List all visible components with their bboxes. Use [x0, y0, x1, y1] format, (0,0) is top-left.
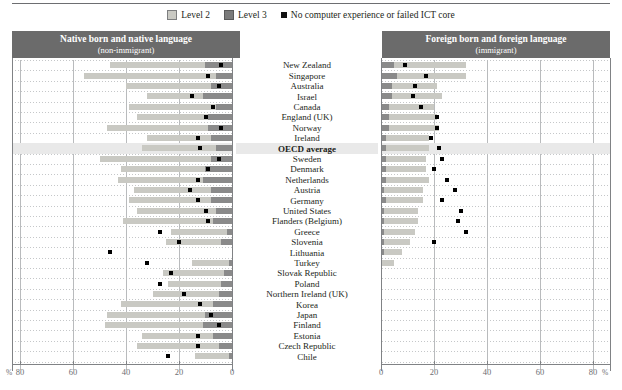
table-row [129, 197, 232, 203]
bar-segment-level-3 [213, 301, 232, 307]
no-computer-marker [182, 292, 186, 296]
no-computer-marker [419, 105, 423, 109]
axis-tick-label-native: 60 [58, 367, 88, 377]
no-computer-marker [217, 157, 221, 161]
gridline-horizontal [12, 362, 232, 363]
legend-label-no-computer: No computer experience or failed ICT cor… [291, 10, 455, 20]
table-row [142, 145, 232, 151]
bar-segment-level-2 [384, 239, 411, 245]
axis-tick-label-native: 20 [164, 367, 194, 377]
bar-segment-level-2 [137, 343, 219, 349]
gridline-horizontal [12, 289, 232, 290]
bar-segment-level-3 [211, 83, 232, 89]
axis-line-immigrant [381, 364, 610, 365]
table-row [147, 135, 232, 141]
bar-segment-level-2 [107, 312, 205, 318]
table-row [382, 145, 429, 151]
table-row [123, 218, 232, 224]
table-row [382, 166, 426, 172]
category-label: Austria [236, 185, 378, 195]
bar-segment-level-2 [110, 62, 205, 68]
table-row [107, 125, 232, 131]
gridline-horizontal [12, 91, 232, 92]
no-computer-marker [424, 74, 428, 78]
no-computer-marker [196, 178, 200, 182]
axis-tick-immigrant [593, 361, 594, 364]
gridline-horizontal [12, 299, 232, 300]
gridline-horizontal [382, 330, 610, 331]
gridline-horizontal [382, 122, 610, 123]
bar-segment-level-3 [216, 104, 232, 110]
plot-frame-immigrant-left [381, 58, 382, 371]
table-row [137, 208, 232, 214]
category-label: Slovak Republic [236, 268, 378, 278]
no-computer-marker [464, 230, 468, 234]
no-computer-marker [459, 209, 463, 213]
bar-segment-level-2 [84, 73, 217, 79]
bar-segment-level-3 [382, 83, 392, 89]
no-computer-marker [198, 302, 202, 306]
legend-item-no-computer: No computer experience or failed ICT cor… [281, 10, 455, 20]
axis-tick-native [126, 361, 127, 364]
gridline-horizontal [382, 174, 610, 175]
plot-frame-immigrant-right [610, 58, 611, 371]
bar-segment-level-2 [192, 260, 229, 266]
axis-tick-label-immigrant: 20 [419, 367, 449, 377]
category-label: Germany [236, 196, 378, 206]
bar-segment-level-2 [386, 177, 428, 183]
category-label-column: New ZealandSingaporeAustraliaIsraelCanad… [236, 60, 378, 370]
category-label: Flanders (Belgium) [236, 216, 378, 226]
bar-segment-level-2 [384, 229, 416, 235]
no-computer-marker [188, 188, 192, 192]
no-computer-marker [435, 115, 439, 119]
gridline-horizontal [382, 299, 610, 300]
no-computer-marker [432, 167, 436, 171]
gridline-horizontal [382, 206, 610, 207]
no-computer-marker [196, 136, 200, 140]
gridline-horizontal [12, 122, 232, 123]
bar-segment-level-2 [386, 156, 426, 162]
category-label: Norway [236, 123, 378, 133]
bar-segment-level-3 [382, 73, 397, 79]
no-computer-marker-icon [281, 12, 287, 18]
category-label: Czech Republic [236, 341, 378, 351]
category-label: Northern Ireland (UK) [236, 289, 378, 299]
gridline-horizontal [12, 60, 232, 61]
no-computer-marker [145, 261, 149, 265]
gridline-horizontal [12, 226, 232, 227]
gridline-horizontal [382, 185, 610, 186]
bar-segment-level-2 [386, 197, 423, 203]
category-label: OECD average [236, 144, 378, 154]
gridline-horizontal [382, 133, 610, 134]
category-label: Australia [236, 81, 378, 91]
panel-header-immigrant-subtitle: (immigrant) [475, 45, 516, 56]
bar-segment-level-2 [147, 93, 203, 99]
no-computer-marker [217, 323, 221, 327]
category-label: Canada [236, 102, 378, 112]
no-computer-marker [169, 271, 173, 275]
bar-segment-level-2 [142, 333, 214, 339]
gridline-horizontal [12, 102, 232, 103]
category-label: Chile [236, 352, 378, 362]
gridline-horizontal [12, 278, 232, 279]
no-computer-marker [219, 63, 223, 67]
table-row [121, 301, 232, 307]
bar-segment-level-3 [211, 187, 232, 193]
axis-tick-label-immigrant: 60 [525, 367, 555, 377]
bar-segment-level-3 [382, 104, 389, 110]
bar-segment-level-2 [397, 73, 466, 79]
table-row [129, 104, 232, 110]
gridline-horizontal [382, 70, 610, 71]
no-computer-marker [432, 240, 436, 244]
bar-segment-level-3 [224, 270, 232, 276]
gridline-horizontal [382, 310, 610, 311]
category-label: Korea [236, 300, 378, 310]
top-divider [12, 3, 610, 4]
bar-segment-level-2 [142, 145, 216, 151]
bar-segment-level-2 [389, 114, 437, 120]
bar-segment-level-2 [382, 260, 394, 266]
chart-legend: Level 2 Level 3 No computer experience o… [0, 8, 622, 22]
gridline-horizontal [382, 258, 610, 259]
category-label: Estonia [236, 331, 378, 341]
table-row [171, 229, 232, 235]
